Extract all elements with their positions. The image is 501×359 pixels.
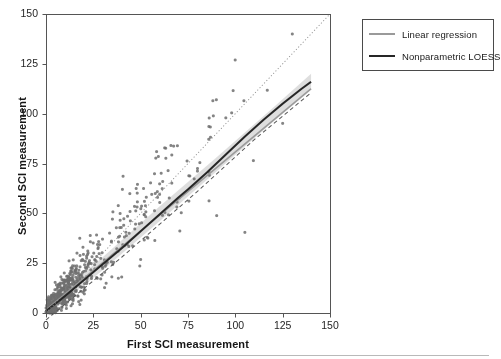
y-tick-label: 50 [4,206,38,218]
y-tick-label: 25 [4,256,38,268]
x-tick-label: 25 [76,319,110,331]
x-tick-label: 125 [266,319,300,331]
y-tick-label: 150 [4,7,38,19]
x-axis-title: First SCI measurement [0,338,376,350]
legend-swatch-nonparametric-loess [369,55,395,57]
legend-item-nonparametric-loess: Nonparametric LOESS [363,46,493,66]
x-tick-label: 150 [313,319,347,331]
x-tick-label: 50 [124,319,158,331]
chart-legend: Linear regression Nonparametric LOESS [362,19,494,71]
footer-rule [0,355,489,356]
legend-label-nonparametric-loess: Nonparametric LOESS [402,51,501,62]
legend-swatch-linear-regression [369,33,395,35]
y-tick-label: 100 [4,107,38,119]
legend-label-linear-regression: Linear regression [402,29,477,40]
y-tick-label: 75 [4,157,38,169]
x-tick-label: 100 [218,319,252,331]
x-tick-label: 0 [29,319,63,331]
legend-item-linear-regression: Linear regression [363,24,493,44]
y-tick-label: 0 [4,306,38,318]
x-tick-label: 75 [171,319,205,331]
y-tick-label: 125 [4,57,38,69]
